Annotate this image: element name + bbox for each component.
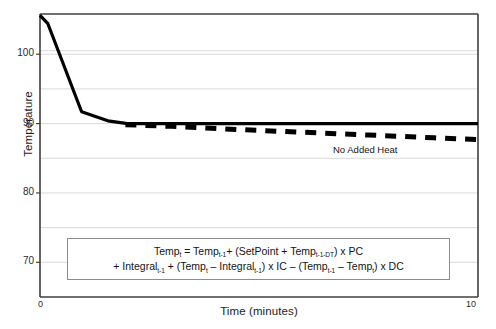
formula-subscript: t-1 [254, 267, 261, 274]
formula-subscript: t-1 [219, 251, 226, 258]
series-layer [40, 15, 478, 139]
gridlines [36, 51, 478, 263]
y-tick-label: 70 [4, 255, 34, 266]
no-added-heat-annotation: No Added Heat [333, 144, 397, 155]
y-axis-title: Temperature [22, 44, 34, 204]
series-line [125, 125, 478, 140]
x-axis-title: Time (minutes) [40, 305, 478, 317]
formula-subscript: t-1-DT [316, 251, 334, 258]
formula-line-1: Tempt = Tempt-1+ (SetPoint + Tempt-1-DT)… [154, 244, 363, 259]
formula-subscript: t-1 [157, 267, 164, 274]
formula-subscript: t-1 [328, 267, 335, 274]
formula-line-2: + Integralt-1 + (Tempt – Integralt-1) x … [113, 259, 403, 274]
series-line [40, 15, 478, 123]
formula-subscript: t [180, 251, 182, 258]
formula-subscript: t [372, 267, 374, 274]
formula-box: Tempt = Tempt-1+ (SetPoint + Tempt-1-DT)… [67, 238, 450, 280]
temperature-chart: 708090100 010 Temperature Time (minutes)… [0, 0, 496, 329]
formula-subscript: t [206, 267, 208, 274]
